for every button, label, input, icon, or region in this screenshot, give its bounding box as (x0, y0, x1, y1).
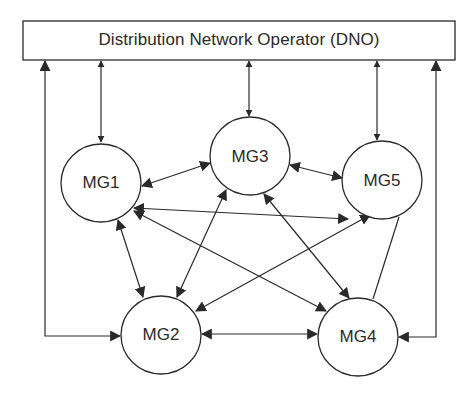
node-label-mg1: MG1 (61, 171, 141, 195)
edge-mg3-mg4 (264, 194, 349, 298)
node-label-mg3: MG3 (210, 145, 290, 169)
node-label-mg2: MG2 (121, 323, 201, 347)
edge-mg5-mg2 (196, 215, 370, 311)
edge-mg3-mg2 (177, 190, 226, 297)
edge-mg5-mg4 (373, 217, 399, 299)
dno-label: Distribution Network Operator (DNO) (23, 20, 455, 60)
edge-mg1-mg2 (118, 220, 143, 297)
edge-mg3-mg5 (290, 165, 342, 178)
node-label-mg5: MG5 (342, 169, 422, 193)
edge-mg1-mg5 (134, 208, 348, 219)
edge-mg1-mg3 (142, 163, 210, 186)
node-label-mg4: MG4 (318, 325, 398, 349)
